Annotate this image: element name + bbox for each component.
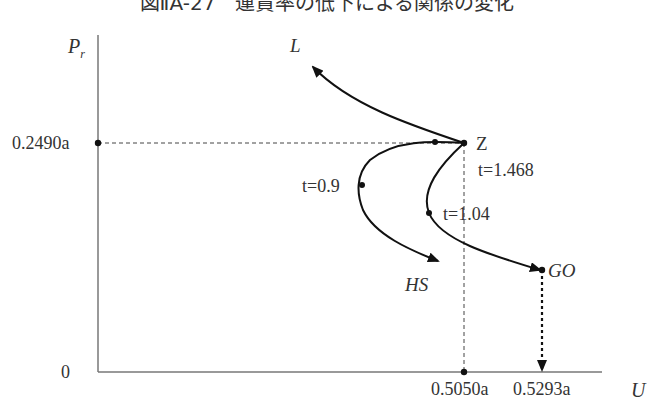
point-z-near: [432, 139, 438, 145]
label-z: Z: [476, 134, 488, 153]
point-y-tick: [95, 140, 101, 146]
label-t-z: t=1.468: [478, 161, 534, 179]
label-hs: HS: [405, 275, 428, 294]
point-x-tick: [461, 369, 467, 375]
y-axis-label-sub: r: [80, 47, 85, 61]
label-t-09: t=0.9: [302, 177, 340, 195]
point-t09: [359, 182, 365, 188]
label-t-104: t=1.04: [443, 205, 490, 223]
label-go: GO: [548, 261, 575, 280]
y-axis-label-main: P: [68, 35, 80, 57]
x-tick-label-1: 0.5050a: [431, 380, 489, 398]
origin-label: 0: [61, 363, 70, 381]
point-t104: [426, 210, 432, 216]
y-axis-label: Pr: [68, 36, 85, 60]
curve-z-to-l: [313, 67, 464, 143]
point-go: [539, 267, 545, 273]
y-tick-label: 0.2490a: [12, 134, 70, 152]
diagram-canvas: [0, 0, 654, 403]
point-z: [461, 140, 467, 146]
label-l: L: [290, 36, 301, 55]
x-axis-label: U: [631, 380, 645, 400]
x-tick-label-2: 0.5293a: [513, 380, 571, 398]
